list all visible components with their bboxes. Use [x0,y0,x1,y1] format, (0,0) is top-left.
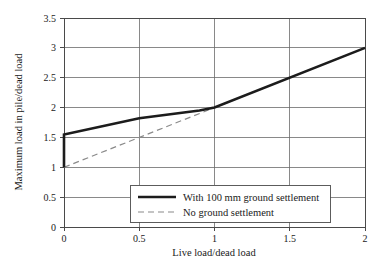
chart-legend: With 100 mm ground settlement No ground … [130,185,330,222]
y-tick-label: 3.5 [44,13,57,24]
y-tick-label: 2 [51,102,56,113]
legend-label-with-settlement: With 100 mm ground settlement [183,192,319,203]
x-tick-label: 0 [62,233,67,244]
y-tick-marks [60,18,64,227]
y-tick-label: 1.5 [44,132,57,143]
x-tick-label: 2 [363,233,368,244]
y-tick-label: 3 [51,42,56,53]
x-tick-label: 0.5 [133,233,146,244]
x-tick-marks [64,227,365,231]
x-tick-label: 1.5 [284,233,297,244]
y-tick-label: 0 [51,222,56,233]
legend-label-no-settlement: No ground settlement [183,207,274,218]
y-tick-label: 2.5 [44,72,57,83]
x-axis-title: Live load/dead load [172,247,256,258]
x-tick-label: 1 [212,233,217,244]
y-tick-label: 0.5 [44,192,57,203]
chart-figure: 00.511.522.533.5 00.511.52 Live load/dea… [0,0,385,275]
y-tick-label: 1 [51,162,56,173]
chart-canvas: 00.511.522.533.5 00.511.52 Live load/dea… [0,0,385,275]
y-axis-title: Maximum load in pile/dead load [13,53,24,191]
x-tick-labels: 00.511.52 [62,233,368,244]
y-tick-labels: 00.511.522.533.5 [44,13,57,233]
